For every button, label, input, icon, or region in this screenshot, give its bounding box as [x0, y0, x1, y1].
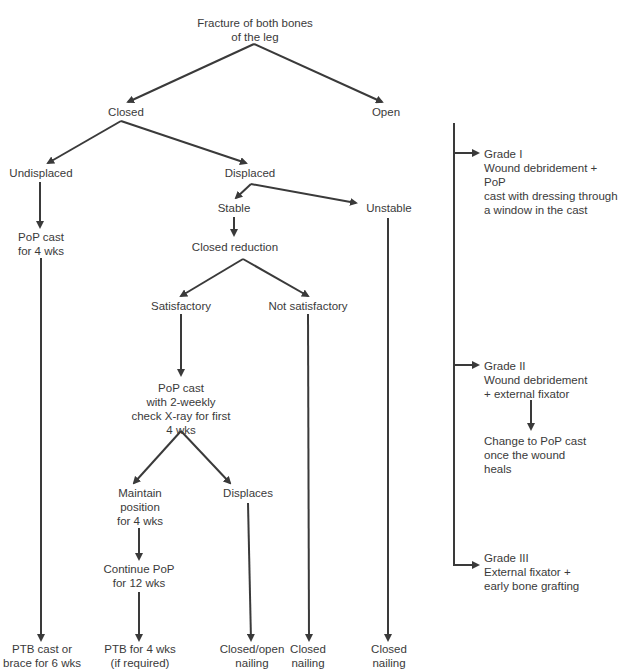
node-open: Open: [372, 105, 400, 119]
node-grade1: Grade I Wound debridement + PoP cast wit…: [484, 147, 618, 217]
node-ptb-cast-brace: PTB cast or brace for 6 wks: [3, 642, 81, 670]
node-closed-nailing-2: Closed nailing: [371, 642, 407, 670]
node-grade3: Grade III External fixator + early bone …: [484, 551, 579, 593]
node-not-satisfactory: Not satisfactory: [268, 299, 347, 313]
edge-displaced-stable: [236, 184, 251, 198]
node-closed-reduction: Closed reduction: [192, 240, 278, 254]
node-grade2-followup: Change to PoP cast once the wound heals: [484, 434, 586, 476]
edge-root-open: [254, 44, 382, 102]
node-closed-nailing-1: Closed nailing: [290, 642, 326, 670]
flowchart: Fracture of both bones of the leg Closed…: [0, 0, 618, 670]
edge-pop-displaces: [181, 431, 230, 483]
node-undisplaced: Undisplaced: [9, 166, 72, 180]
edge-reduction-satisfactory: [181, 259, 243, 296]
edge-reduction-notsatisfactory: [243, 259, 308, 296]
edge-closed-displaced: [121, 121, 246, 163]
node-pop-cast-4wks: PoP cast for 4 wks: [18, 230, 64, 258]
node-satisfactory: Satisfactory: [151, 299, 211, 313]
edge-displaces-nailing: [248, 503, 251, 640]
node-displaces: Displaces: [223, 486, 273, 500]
edge-displaced-unstable: [251, 184, 356, 203]
node-unstable: Unstable: [366, 201, 411, 215]
edge-root-closed: [128, 44, 254, 102]
node-maintain-position: Maintain position for 4 wks: [117, 486, 163, 528]
node-continue-pop: Continue PoP for 12 wks: [104, 562, 175, 590]
edge-closed-undisplaced: [48, 121, 121, 163]
node-ptb-4wks: PTB for 4 wks (if required): [104, 642, 176, 670]
edge-notsatisfactory-nailing: [308, 314, 309, 640]
node-root: Fracture of both bones of the leg: [197, 16, 313, 44]
edge-pop-maintain: [134, 431, 181, 483]
node-closed-open-nailing: Closed/open nailing: [220, 642, 285, 670]
node-closed: Closed: [108, 105, 144, 119]
node-displaced: Displaced: [225, 166, 276, 180]
node-pop-cast-checks: PoP cast with 2-weekly check X-ray for f…: [131, 381, 230, 437]
node-grade2: Grade II Wound debridement + external fi…: [484, 359, 587, 401]
node-stable: Stable: [218, 201, 251, 215]
